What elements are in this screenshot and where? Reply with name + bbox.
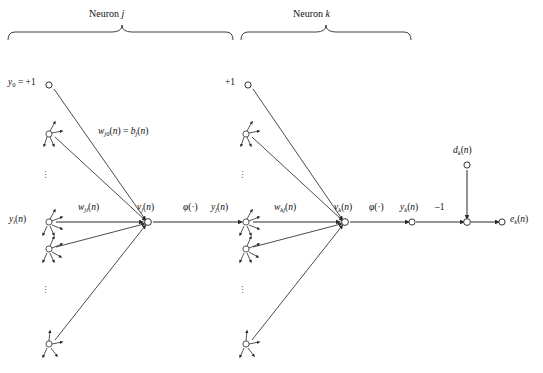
node-summing: [464, 219, 471, 226]
brace-neuron-j: [8, 25, 233, 40]
ellipsis-output-lower: ···: [238, 285, 247, 295]
label-y-k: yk(n): [400, 203, 418, 213]
node-hidden-in-3: [43, 237, 62, 262]
ellipsis-hidden-lower: ···: [41, 285, 50, 295]
ellipsis-hidden-upper: ···: [41, 170, 50, 180]
node-v-k: [342, 219, 349, 226]
label-y0-bias: y0 = +1: [8, 78, 36, 88]
label-v-k: vk(n): [334, 203, 352, 213]
node-bias-k: [245, 82, 251, 88]
group-label-neuron-k: Neuron k: [293, 9, 330, 19]
brace-neuron-k: [241, 25, 411, 40]
label-bias-k: +1: [225, 78, 235, 88]
label-v-j: vj(n): [137, 203, 154, 213]
label-w-j0-bias: wj0(n) = bj(n): [98, 127, 148, 137]
label-d-k: dk(n): [453, 146, 472, 156]
label-phi-j: φ(·): [183, 203, 198, 213]
label-e-k: ek(n): [510, 215, 528, 225]
label-y-i: yi(n): [9, 215, 26, 225]
signal-flow-graph: Neuron j Neuron k y0 = +1 wj0(n) = bj(n)…: [0, 0, 543, 373]
edges-to-vk: [252, 89, 342, 340]
label-phi-k: φ(·): [369, 203, 384, 213]
label-minus-one: –1: [435, 203, 445, 213]
label-w-ji: wji(n): [78, 203, 99, 213]
node-y-k: [409, 219, 415, 225]
group-label-neuron-j: Neuron j: [89, 9, 124, 19]
diagram-canvas: [0, 0, 543, 373]
label-w-kj: wkj(n): [274, 203, 296, 213]
node-output-in-1: [241, 122, 259, 146]
label-y-j: yj(n): [211, 203, 228, 213]
node-e-k: [499, 219, 505, 225]
node-d-k: [464, 162, 470, 168]
node-y0-bias: [46, 82, 52, 88]
node-output-in-3: [240, 237, 259, 262]
node-hidden-in-1: [44, 122, 62, 146]
ellipsis-output-upper: ···: [238, 170, 247, 180]
node-v-j: [145, 219, 152, 226]
